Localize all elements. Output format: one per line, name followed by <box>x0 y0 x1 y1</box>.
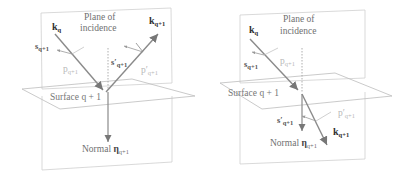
label-k-q: kq <box>249 24 259 36</box>
incident-vector-k-q <box>55 34 103 90</box>
label-s-out: s′q+1 <box>277 115 293 126</box>
surface-label: Surface q + 1 <box>50 92 101 102</box>
label-k-q1: kq+1 <box>333 126 349 138</box>
plane-label-line2: incidence <box>280 26 316 36</box>
plane-of-incidence-lower <box>42 96 172 170</box>
label-s-out: s′q+1 <box>111 57 127 68</box>
label-s-in: sq+1 <box>35 41 49 52</box>
label-p-in: pq+1 <box>280 56 295 67</box>
label-p-in: pq+1 <box>63 64 78 75</box>
p-vector-in <box>72 47 84 54</box>
plane-label-line1: Plane of <box>283 14 315 24</box>
p-vector-out <box>316 112 331 121</box>
reflection-figure: Plane of incidence kq kq+1 sq+1 pq+1 s′q… <box>22 8 195 170</box>
normal-label: Normal ηq+1 <box>82 144 129 155</box>
label-k-q: kq <box>52 21 62 33</box>
normal-label: Normal ηq+1 <box>270 138 317 149</box>
label-s-in: sq+1 <box>244 59 258 70</box>
p-vector-in <box>264 48 278 55</box>
label-p-out: p′q+1 <box>338 108 355 119</box>
s-vector-out <box>124 46 143 52</box>
plane-label-line2: incidence <box>80 23 116 33</box>
label-k-q1: kq+1 <box>149 15 165 27</box>
diagram-canvas: Plane of incidence kq kq+1 sq+1 pq+1 s′q… <box>0 0 411 175</box>
plane-label-line1: Plane of <box>84 12 116 22</box>
label-p-out: p′q+1 <box>141 65 158 76</box>
surface-label: Surface q + 1 <box>228 88 279 98</box>
refraction-figure: Plane of incidence kq sq+1 pq+1 Surface … <box>220 10 392 164</box>
